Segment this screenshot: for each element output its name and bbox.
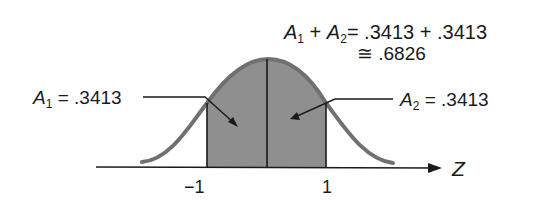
label-a1: A1 = .3413 xyxy=(33,88,122,110)
label-a2: A2 = .3413 xyxy=(400,90,489,112)
tick-plus-one: 1 xyxy=(322,178,332,196)
sum-equation: A1 + A2= .3413 + .3413 xyxy=(284,22,487,45)
a1-var: A xyxy=(284,21,297,43)
a2-var: A xyxy=(327,21,340,43)
z-axis xyxy=(96,167,436,168)
axis-arrowhead-icon xyxy=(428,163,442,173)
a1-sub: 1 xyxy=(297,32,304,46)
label-a2-var: A xyxy=(400,89,413,110)
label-a1-var: A xyxy=(33,87,46,108)
sum-result: ≅ .6826 xyxy=(357,44,426,63)
label-a2-sub: 2 xyxy=(413,99,420,113)
label-a2-value: = .3413 xyxy=(425,89,489,110)
label-a1-sub: 1 xyxy=(46,97,53,111)
a2-sub: 2 xyxy=(340,32,347,46)
tick-minus-one: −1 xyxy=(184,178,205,196)
label-a1-value: = .3413 xyxy=(58,87,122,108)
sum-rhs: = .3413 + .3413 xyxy=(347,21,487,43)
plus-sign: + xyxy=(310,21,322,43)
axis-label-z: Z xyxy=(452,158,465,179)
